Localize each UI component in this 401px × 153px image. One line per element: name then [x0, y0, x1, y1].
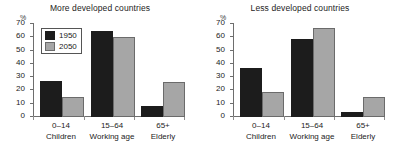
- chart-panel-more-developed: More developed countries % 0 10 20 30 40…: [0, 0, 200, 153]
- y-tick-label: 50: [16, 45, 25, 54]
- y-tick-label: 60: [216, 31, 225, 40]
- plot-area: 0 10 20 30 40 50 60 70: [33, 24, 185, 117]
- x-label-elderly: 65+ Elderly: [328, 120, 398, 142]
- y-tick-label: 10: [216, 98, 225, 107]
- bar-1950-working-age: [91, 31, 113, 117]
- x-axis-labels: 0–14 Children 15–64 Working age 65+ Elde…: [233, 120, 385, 148]
- legend-label-2050: 2050: [59, 42, 77, 51]
- x-label-range: 65+: [128, 120, 198, 131]
- bar-2050-working-age: [313, 28, 335, 117]
- y-tick-label: 30: [16, 71, 25, 80]
- x-axis-labels: 0–14 Children 15–64 Working age 65+ Elde…: [33, 120, 185, 148]
- legend-label-1950: 1950: [59, 31, 77, 40]
- y-tick-label: 70: [216, 18, 225, 27]
- x-label-name: Elderly: [128, 131, 198, 142]
- population-age-structure-figure: More developed countries % 0 10 20 30 40…: [0, 0, 401, 153]
- bar-1950-elderly: [341, 112, 363, 117]
- y-tick-label: 20: [216, 84, 225, 93]
- legend-swatch-2050-icon: [45, 42, 55, 51]
- legend-swatch-1950-icon: [45, 31, 55, 40]
- legend: 1950 2050: [41, 28, 82, 54]
- panel-title: Less developed countries: [200, 3, 400, 13]
- bar-series-group: [233, 24, 385, 117]
- bar-1950-children: [40, 81, 62, 117]
- bar-1950-children: [240, 68, 262, 117]
- y-tick-label: 20: [16, 84, 25, 93]
- y-tick-label: 50: [216, 45, 225, 54]
- y-tick-label: 0: [21, 111, 25, 120]
- y-tick-label: 10: [16, 98, 25, 107]
- y-tick-label: 0: [221, 111, 225, 120]
- chart-panel-less-developed: Less developed countries % 0 10 20 30 40…: [200, 0, 400, 153]
- bar-1950-elderly: [141, 106, 163, 117]
- bar-2050-working-age: [113, 37, 135, 117]
- x-label-range: 65+: [328, 120, 398, 131]
- bar-2050-elderly: [363, 97, 385, 117]
- legend-item-2050: 2050: [45, 42, 77, 51]
- y-tick-label: 60: [16, 31, 25, 40]
- panel-title: More developed countries: [0, 3, 200, 13]
- plot-area: 0 10 20 30 40 50 60 70: [233, 24, 385, 117]
- x-label-elderly: 65+ Elderly: [128, 120, 198, 142]
- y-tick-label: 30: [216, 71, 225, 80]
- bar-2050-children: [262, 92, 284, 117]
- bar-2050-elderly: [163, 82, 185, 117]
- y-tick-label: 40: [216, 58, 225, 67]
- x-label-name: Elderly: [328, 131, 398, 142]
- y-tick-label: 70: [16, 18, 25, 27]
- y-tick-label: 40: [16, 58, 25, 67]
- bar-1950-working-age: [291, 39, 313, 117]
- legend-item-1950: 1950: [45, 31, 77, 40]
- bar-2050-children: [62, 97, 84, 117]
